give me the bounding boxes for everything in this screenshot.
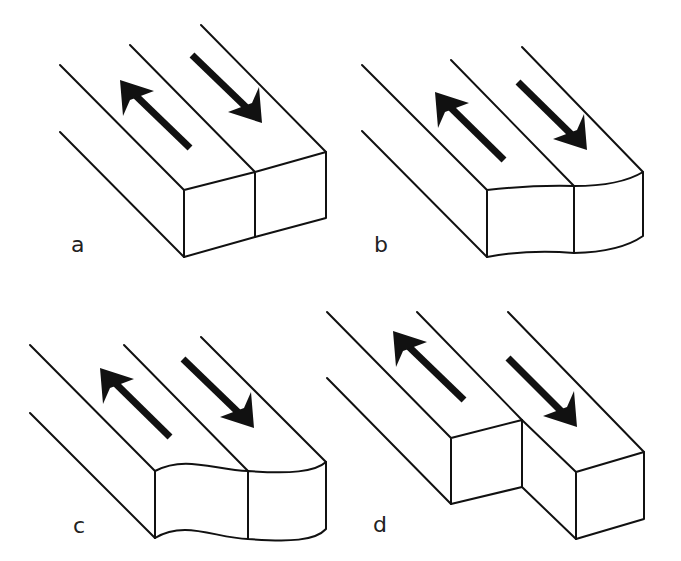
arrow-up-left-icon bbox=[120, 80, 190, 148]
panel-a bbox=[60, 25, 326, 257]
arrow-up-left-icon bbox=[435, 92, 504, 160]
panel-c bbox=[30, 337, 326, 540]
panel-label-a: a bbox=[71, 232, 84, 257]
panel-label-d: d bbox=[373, 512, 387, 537]
panel-b bbox=[362, 47, 643, 257]
panel-d bbox=[327, 312, 644, 539]
panel-label-c: c bbox=[73, 513, 85, 538]
diagram-canvas bbox=[0, 0, 681, 561]
panel-label-b: b bbox=[374, 232, 388, 257]
arrow-down-right-icon bbox=[183, 359, 254, 428]
arrow-down-right-icon bbox=[192, 55, 262, 123]
